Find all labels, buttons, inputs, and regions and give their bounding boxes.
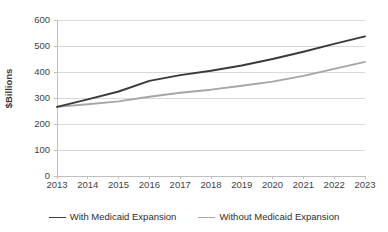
- y-axis-tick-labels: 0100200300400500600: [18, 0, 54, 232]
- y-axis-tick-label: 600: [18, 15, 54, 25]
- y-axis-title-label: $Billions: [4, 68, 15, 108]
- y-axis-title: $Billions: [0, 0, 18, 176]
- x-axis-tick-label: 2019: [231, 180, 252, 190]
- legend-item-label: With Medicaid Expansion: [70, 212, 177, 222]
- y-axis-tick-label: 100: [18, 145, 54, 155]
- y-axis-tick-label: 500: [18, 41, 54, 51]
- x-axis-tick-label: 2013: [46, 180, 67, 190]
- legend-item[interactable]: Without Medicaid Expansion: [198, 212, 339, 222]
- plot-svg: [57, 20, 365, 176]
- y-axis-tick-label: 400: [18, 67, 54, 77]
- legend-line-icon: [198, 217, 215, 218]
- x-axis-tick-label: 2022: [324, 180, 345, 190]
- y-axis-tick-label: 300: [18, 93, 54, 103]
- legend-item[interactable]: With Medicaid Expansion: [49, 212, 177, 222]
- x-axis-tick-label: 2016: [139, 180, 160, 190]
- x-axis-tick-label: 2023: [354, 180, 375, 190]
- legend-line-icon: [49, 217, 66, 218]
- x-axis-tick-label: 2017: [170, 180, 191, 190]
- legend-item-label: Without Medicaid Expansion: [219, 212, 339, 222]
- chart-legend: With Medicaid ExpansionWithout Medicaid …: [0, 206, 388, 228]
- x-axis-tick-label: 2015: [108, 180, 129, 190]
- x-axis-tick-label: 2020: [262, 180, 283, 190]
- series-line: [57, 62, 365, 107]
- x-axis-tick-label: 2014: [77, 180, 98, 190]
- y-axis-tick-label: 200: [18, 119, 54, 129]
- x-axis-tick-label: 2021: [293, 180, 314, 190]
- x-axis-tick-labels: 2013201420152016201720182019202020212022…: [57, 178, 365, 194]
- line-chart: $Billions 0100200300400500600 2013201420…: [0, 0, 388, 232]
- x-axis-tick-label: 2018: [200, 180, 221, 190]
- plot-area: [57, 20, 365, 176]
